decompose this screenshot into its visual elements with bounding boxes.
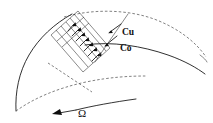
velocity-arrow: [84, 42, 93, 51]
velocity-arrow: [88, 47, 97, 56]
co-label: Co: [120, 43, 132, 53]
co-vector: [104, 36, 117, 46]
turbomachinery-blade-diagram: Cu Co Ω: [0, 0, 213, 123]
passage-outline-group: [16, 11, 207, 111]
cu-vector: [108, 24, 121, 33]
mid-solid-boundary: [85, 44, 205, 74]
cu-label: Cu: [122, 27, 135, 37]
omega-label: Ω: [78, 107, 86, 119]
rotation-indicator-group: Ω: [52, 99, 136, 119]
omega-arc-tail: [59, 110, 76, 113]
grid-lower-guide: [48, 63, 92, 92]
velocity-profile-grid: [51, 11, 110, 72]
trailing-edge-tip: [200, 55, 207, 62]
omega-arrow-head: [52, 109, 62, 115]
velocity-arrow: [68, 22, 76, 31]
diagram-canvas: Cu Co Ω: [0, 0, 213, 123]
component-reference-line: [95, 14, 128, 62]
leading-edge-curve: [16, 14, 72, 111]
